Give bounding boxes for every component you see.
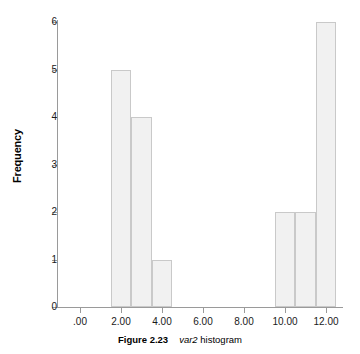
x-tick-mark-2	[121, 308, 122, 313]
y-tick-6: 6	[32, 17, 57, 27]
x-tick-mark-6	[203, 308, 204, 313]
figure-container: Frequency 0 1 2 3 4 5 6 .0	[0, 0, 360, 354]
y-tick-label-1: 1	[37, 255, 57, 265]
x-tick-mark-12	[326, 308, 327, 313]
y-tick-label-4: 4	[37, 112, 57, 122]
histogram-plot: Frequency 0 1 2 3 4 5 6 .0	[0, 0, 360, 330]
y-tick-label-0: 0	[37, 302, 57, 312]
y-tick-3: 3	[32, 160, 57, 170]
y-tick-0: 0	[32, 302, 57, 312]
x-tick-label-12: 12.00	[301, 316, 351, 327]
caption-description: histogram	[200, 334, 242, 345]
y-axis-title: Frequency	[11, 111, 23, 201]
y-tick-2: 2	[32, 207, 57, 217]
y-tick-4: 4	[32, 112, 57, 122]
caption-variable: var2	[179, 334, 197, 345]
x-tick-mark-0	[80, 308, 81, 313]
histogram-bar	[295, 212, 316, 307]
x-axis-line	[57, 307, 343, 308]
histogram-bar	[316, 22, 337, 307]
y-axis-line	[57, 20, 58, 308]
histogram-bar	[131, 117, 152, 307]
y-tick-label-3: 3	[37, 160, 57, 170]
x-tick-mark-10	[285, 308, 286, 313]
histogram-bar	[152, 260, 173, 308]
x-tick-mark-4	[162, 308, 163, 313]
y-tick-1: 1	[32, 255, 57, 265]
y-tick-5: 5	[32, 65, 57, 75]
y-tick-label-6: 6	[37, 17, 57, 27]
figure-caption: Figure 2.23var2 histogram	[0, 334, 360, 346]
histogram-bar	[111, 70, 132, 308]
histogram-bar	[275, 212, 296, 307]
x-tick-mark-8	[244, 308, 245, 313]
y-tick-label-5: 5	[37, 65, 57, 75]
y-tick-label-2: 2	[37, 207, 57, 217]
figure-number: Figure 2.23	[118, 334, 168, 345]
